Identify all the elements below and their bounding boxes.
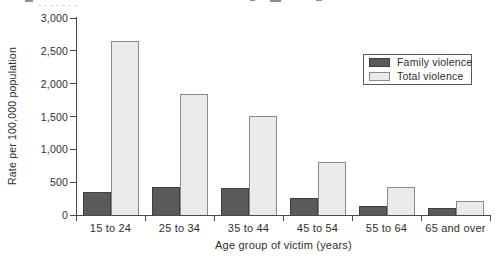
bar-total-violence bbox=[249, 116, 277, 215]
x-axis-title: Age group of victim (years) bbox=[76, 239, 491, 251]
bar-family-violence bbox=[152, 187, 180, 215]
bar-total-violence bbox=[387, 187, 415, 215]
y-tick-label: 2,500 bbox=[22, 45, 68, 57]
y-tick-label: 500 bbox=[22, 176, 68, 188]
bar-family-violence bbox=[359, 206, 387, 215]
chart-legend: Family violenceTotal violence bbox=[363, 54, 472, 85]
x-category-label: 65 and over bbox=[421, 222, 490, 235]
y-tick-mark bbox=[70, 149, 76, 150]
legend-label: Family violence bbox=[397, 57, 472, 68]
bar-total-violence bbox=[111, 41, 139, 215]
x-category-label: 25 to 34 bbox=[145, 222, 214, 235]
x-category-label: 15 to 24 bbox=[76, 222, 145, 235]
x-category-label: 35 to 44 bbox=[214, 222, 283, 235]
legend-item: Family violence bbox=[369, 57, 466, 68]
x-tick-mark bbox=[214, 216, 215, 221]
y-tick-label: 0 bbox=[22, 209, 68, 221]
y-tick-label: 3,000 bbox=[22, 12, 68, 24]
bar-chart: Rate per 100,000 population Age group of… bbox=[0, 0, 496, 263]
x-tick-mark bbox=[352, 216, 353, 221]
figure-canvas: Rate per 100,000 population Age group of… bbox=[0, 0, 496, 263]
bar-total-violence bbox=[318, 162, 346, 215]
x-tick-mark bbox=[76, 216, 77, 221]
bar-family-violence bbox=[290, 198, 318, 215]
legend-swatch-icon bbox=[369, 72, 390, 81]
x-tick-mark bbox=[490, 216, 491, 221]
bar-family-violence bbox=[83, 192, 111, 215]
bar-family-violence bbox=[428, 208, 456, 215]
x-category-label: 55 to 64 bbox=[352, 222, 421, 235]
y-axis-title: Rate per 100,000 population bbox=[6, 46, 18, 186]
y-tick-mark bbox=[70, 182, 76, 183]
bar-family-violence bbox=[221, 188, 249, 215]
x-tick-mark bbox=[283, 216, 284, 221]
y-tick-label: 1,000 bbox=[22, 143, 68, 155]
y-tick-label: 1,500 bbox=[22, 111, 68, 123]
y-tick-mark bbox=[70, 83, 76, 84]
bar-total-violence bbox=[180, 94, 208, 215]
legend-label: Total violence bbox=[397, 71, 463, 82]
x-tick-mark bbox=[421, 216, 422, 221]
legend-swatch-icon bbox=[369, 58, 390, 67]
y-axis-line bbox=[76, 17, 77, 216]
y-tick-label: 2,000 bbox=[22, 78, 68, 90]
y-tick-mark bbox=[70, 18, 76, 19]
x-category-label: 45 to 54 bbox=[283, 222, 352, 235]
bar-total-violence bbox=[456, 201, 484, 215]
x-tick-mark bbox=[145, 216, 146, 221]
legend-item: Total violence bbox=[369, 71, 466, 82]
y-tick-mark bbox=[70, 50, 76, 51]
y-tick-mark bbox=[70, 116, 76, 117]
